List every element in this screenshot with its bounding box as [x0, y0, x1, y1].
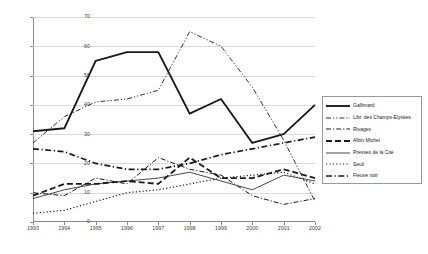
x-tick-label: 2001 — [269, 226, 299, 231]
y-tick-label: 60 — [66, 44, 90, 49]
legend-item-label: Libr. des Champs-Elysées — [353, 115, 411, 120]
chart-legend: GallimardLibr. des Champs-ElyséesRivages… — [322, 96, 422, 184]
x-tick-label: 2002 — [300, 226, 330, 231]
x-tick-label: 1994 — [49, 226, 79, 231]
legend-item-label: Fleuve noir — [353, 173, 378, 178]
legend-item[interactable]: Rivages — [323, 123, 421, 135]
legend-item[interactable]: Fleuve noir — [323, 170, 421, 182]
x-tick-label: 1995 — [81, 226, 111, 231]
legend-line-swatch — [326, 171, 350, 181]
legend-item-label: Presses de la Cité — [353, 150, 394, 155]
y-tick-label: 10 — [66, 190, 90, 195]
x-tick-label: 1997 — [143, 226, 173, 231]
x-tick-label: 1998 — [175, 226, 205, 231]
y-tick-label: 0 — [66, 219, 90, 224]
y-tick-label: 70 — [66, 14, 90, 19]
legend-item-label: Gallimard — [353, 103, 374, 108]
legend-item-label: Seuil — [353, 162, 364, 167]
legend-item-label: Rivages — [353, 127, 371, 132]
legend-line-swatch — [326, 124, 350, 134]
legend-line-swatch — [326, 148, 350, 158]
legend-item[interactable]: Seuil — [323, 158, 421, 170]
legend-line-swatch — [326, 113, 350, 123]
y-tick-label: 30 — [66, 132, 90, 137]
x-tick-label: 1999 — [206, 226, 236, 231]
legend-item-label: Albin Michel — [353, 138, 380, 143]
legend-line-swatch — [326, 136, 350, 146]
x-tick-label: 2000 — [237, 226, 267, 231]
legend-item[interactable]: Presses de la Cité — [323, 147, 421, 159]
legend-item[interactable]: Gallimard — [323, 100, 421, 112]
legend-item[interactable]: Albin Michel — [323, 135, 421, 147]
y-tick-label: 40 — [66, 102, 90, 107]
legend-line-swatch — [326, 101, 350, 111]
y-tick-label: 50 — [66, 73, 90, 78]
legend-line-swatch — [326, 159, 350, 169]
y-tick-label: 20 — [66, 161, 90, 166]
x-tick-label: 1993 — [18, 226, 48, 231]
line-chart-figure: 010203040506070 199319941995199619971998… — [0, 0, 428, 254]
x-tick-label: 1996 — [112, 226, 142, 231]
legend-item[interactable]: Libr. des Champs-Elysées — [323, 112, 421, 124]
series-line-libr-des-champs-elys-es — [33, 32, 315, 202]
series-line-gallimard — [33, 52, 315, 143]
